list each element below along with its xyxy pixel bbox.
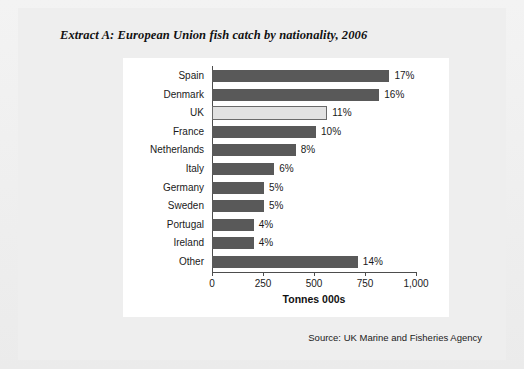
bar-wrapper: 6% [212, 161, 416, 177]
bar-wrapper: 17% [212, 68, 416, 84]
bar[interactable] [212, 256, 358, 268]
bar-wrapper: 11% [212, 105, 416, 121]
bar-category-label: UK [124, 105, 208, 121]
bar-category-label: Other [124, 254, 208, 270]
bar-value-label: 4% [259, 217, 273, 233]
bar[interactable] [212, 182, 264, 194]
page-title: Extract A: European Union fish catch by … [60, 28, 480, 43]
bar-row: Spain17% [123, 68, 449, 84]
bar-category-label: France [124, 124, 208, 140]
bar-wrapper: 10% [212, 124, 416, 140]
bar-category-label: Denmark [124, 87, 208, 103]
bar-value-label: 14% [363, 254, 383, 270]
x-axis-tick [212, 272, 213, 276]
bar-category-label: Netherlands [124, 142, 208, 158]
bar-chart-plot-area: Spain17%Denmark16%UK11%France10%Netherla… [123, 58, 449, 317]
bar-category-label: Italy [124, 161, 208, 177]
bar-wrapper: 4% [212, 217, 416, 233]
bar-wrapper: 5% [212, 198, 416, 214]
screenshot-root: Extract A: European Union fish catch by … [0, 0, 524, 369]
bar-row: Netherlands8% [123, 142, 449, 158]
bar-wrapper: 14% [212, 254, 416, 270]
bar-wrapper: 4% [212, 235, 416, 251]
bar-category-label: Portugal [124, 217, 208, 233]
bar[interactable] [212, 89, 379, 101]
x-axis-title: Tonnes 000s [212, 293, 416, 305]
bar-value-label: 16% [384, 87, 404, 103]
document-page: Extract A: European Union fish catch by … [18, 8, 506, 360]
bar-highlighted[interactable] [212, 106, 327, 120]
bar-row: Denmark16% [123, 87, 449, 103]
bar-value-label: 8% [301, 142, 315, 158]
bar-value-label: 11% [332, 105, 351, 121]
x-axis-tick-label: 500 [306, 278, 323, 289]
bar-category-label: Germany [124, 180, 208, 196]
bar[interactable] [212, 237, 254, 249]
bar-row: UK11% [123, 105, 449, 121]
bar-category-label: Spain [124, 68, 208, 84]
bar-row: Germany5% [123, 180, 449, 196]
x-axis-tick-label: 1,000 [403, 278, 428, 289]
x-axis-tick [365, 272, 366, 276]
bar-category-label: Sweden [124, 198, 208, 214]
bar[interactable] [212, 200, 264, 212]
bar-wrapper: 8% [212, 142, 416, 158]
bar-category-label: Ireland [124, 235, 208, 251]
bar[interactable] [212, 163, 274, 175]
bar[interactable] [212, 219, 254, 231]
bar-wrapper: 5% [212, 180, 416, 196]
x-axis-tick-label: 0 [209, 278, 215, 289]
x-axis-tick [263, 272, 264, 276]
bar-value-label: 17% [394, 68, 414, 84]
bar-value-label: 10% [321, 124, 341, 140]
bar[interactable] [212, 70, 389, 82]
bar-value-label: 5% [269, 198, 283, 214]
bar-row: Italy6% [123, 161, 449, 177]
x-axis-tick [314, 272, 315, 276]
bar[interactable] [212, 144, 296, 156]
source-note: Source: UK Marine and Fisheries Agency [308, 332, 482, 343]
x-axis-tick-label: 250 [255, 278, 272, 289]
bar-row: Sweden5% [123, 198, 449, 214]
chart-panel: Spain17%Denmark16%UK11%France10%Netherla… [123, 58, 449, 317]
bar-row: Portugal4% [123, 217, 449, 233]
bar-value-label: 4% [259, 235, 273, 251]
bar-row: France10% [123, 124, 449, 140]
x-axis-tick-label: 750 [357, 278, 374, 289]
bar[interactable] [212, 126, 316, 138]
bar-row: Other14% [123, 254, 449, 270]
x-axis-tick [416, 272, 417, 276]
bar-value-label: 6% [279, 161, 293, 177]
bar-row: Ireland4% [123, 235, 449, 251]
bar-value-label: 5% [269, 180, 283, 196]
bar-wrapper: 16% [212, 87, 416, 103]
